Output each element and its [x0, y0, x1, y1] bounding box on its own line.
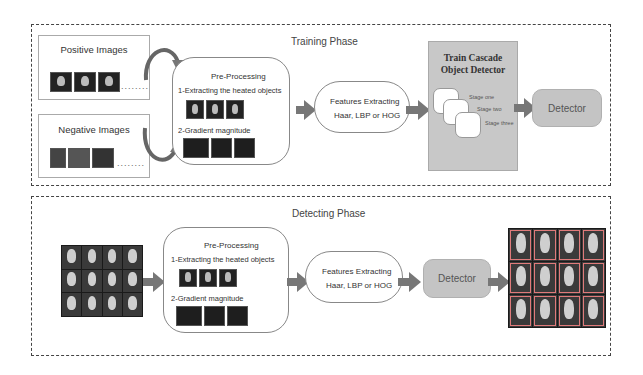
detected-face	[582, 262, 605, 294]
training-detector-box: Detector	[532, 89, 602, 127]
training-step1-label: 1-Extracting the heated objects	[178, 86, 281, 95]
detected-face	[533, 295, 556, 327]
detected-face	[509, 229, 532, 261]
detecting-heated-thumb-3	[219, 269, 237, 287]
detecting-preprocessing-title: Pre-Processing	[204, 241, 259, 250]
input-face	[103, 246, 122, 269]
training-features-box: Features Extracting Haar, LBP or HOG	[314, 81, 410, 133]
training-heated-thumb-2	[206, 100, 224, 119]
input-face	[62, 270, 81, 293]
detected-face	[558, 295, 581, 327]
negative-thumb-3	[92, 148, 114, 168]
detecting-features-line1: Features Extracting	[322, 267, 391, 276]
training-preprocessing-title: Pre-Processing	[211, 72, 266, 81]
input-face	[123, 246, 142, 269]
detected-face	[509, 295, 532, 327]
positive-thumb-1	[50, 72, 72, 92]
detecting-heated-thumb-1	[179, 269, 197, 287]
detected-face	[533, 229, 556, 261]
input-face	[62, 293, 81, 316]
detected-face	[558, 262, 581, 294]
positive-thumb-3	[98, 72, 120, 92]
detecting-step2-label: 2-Gradient magnitude	[171, 294, 244, 303]
positive-thumb-2	[74, 72, 96, 92]
input-face	[82, 270, 101, 293]
negative-thumb-1	[50, 148, 66, 168]
input-image-mosaic	[61, 245, 143, 317]
output-detection-mosaic	[508, 228, 606, 328]
train-cascade-box: Train Cascade Object Detector Stage one …	[428, 41, 518, 171]
detecting-preprocessing-box: Pre-Processing 1-Extracting the heated o…	[163, 227, 289, 333]
cascade-title-line2: Object Detector	[429, 64, 517, 76]
detecting-phase-title: Detecting Phase	[292, 208, 365, 219]
training-preprocessing-box: Pre-Processing 1-Extracting the heated o…	[172, 57, 290, 165]
input-face	[82, 293, 101, 316]
detecting-gradient-thumb-2	[204, 306, 225, 326]
positive-images-box: Positive Images ........	[38, 35, 150, 100]
detecting-gradient-thumb-3	[227, 306, 248, 326]
negative-thumb-2	[68, 148, 90, 168]
detecting-features-box: Features Extracting Haar, LBP or HOG	[305, 251, 403, 303]
detected-face	[509, 262, 532, 294]
input-face	[62, 246, 81, 269]
positive-images-label: Positive Images	[39, 44, 149, 55]
training-gradient-thumb-2	[211, 138, 232, 158]
stage-three-label: Stage three	[485, 120, 513, 126]
detecting-gradient-thumb-1	[176, 306, 202, 326]
detected-face	[533, 262, 556, 294]
training-step2-label: 2-Gradient magnitude	[178, 126, 251, 135]
training-features-line1: Features Extracting	[330, 97, 399, 106]
training-gradient-thumb-3	[234, 138, 255, 158]
stage-two-label: Stage two	[477, 106, 501, 112]
training-phase-title: Training Phase	[291, 36, 358, 47]
training-features-line2: Haar, LBP or HOG	[334, 111, 400, 120]
negative-images-box: Negative Images ........	[38, 114, 150, 178]
detected-face	[582, 229, 605, 261]
input-face	[82, 246, 101, 269]
stage-three-box	[455, 112, 481, 138]
cascade-title-line1: Train Cascade	[429, 52, 517, 64]
detected-face	[582, 295, 605, 327]
stage-one-label: Stage one	[469, 94, 494, 100]
training-heated-thumb-3	[226, 100, 244, 119]
detected-face	[558, 229, 581, 261]
training-gradient-thumb-1	[183, 138, 209, 158]
detecting-step1-label: 1-Extracting the heated objects	[171, 255, 274, 264]
training-heated-thumb-1	[186, 100, 204, 119]
input-face	[103, 293, 122, 316]
input-face	[123, 270, 142, 293]
detecting-heated-thumb-2	[199, 269, 217, 287]
detecting-features-line2: Haar, LBP or HOG	[326, 281, 392, 290]
input-face	[103, 270, 122, 293]
negative-images-label: Negative Images	[39, 124, 149, 135]
input-face	[123, 293, 142, 316]
detecting-detector-box: Detector	[423, 259, 491, 298]
